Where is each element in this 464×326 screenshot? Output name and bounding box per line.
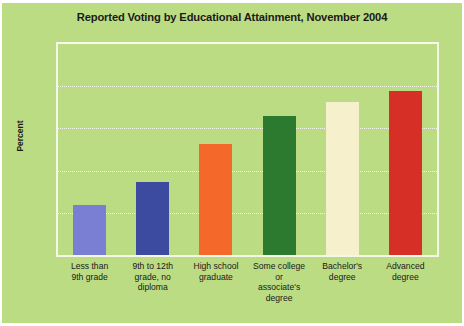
chart-figure: Reported Voting by Educational Attainmen… bbox=[2, 3, 462, 323]
x-tick-label-line: Advanced bbox=[360, 261, 450, 272]
x-tick-label-line: degree bbox=[234, 293, 324, 304]
gridline bbox=[58, 128, 437, 130]
y-axis-label: Percent bbox=[15, 106, 25, 166]
bar bbox=[389, 91, 422, 255]
x-tick-label-line: degree bbox=[360, 272, 450, 283]
gridline bbox=[58, 86, 437, 88]
bar bbox=[136, 182, 169, 255]
plot-area: 020406080100 bbox=[56, 42, 439, 257]
gridline bbox=[58, 171, 437, 173]
plot-inner: 020406080100 bbox=[58, 44, 437, 255]
gridline bbox=[58, 213, 437, 215]
x-tick-label-line: diploma bbox=[108, 282, 198, 293]
bar bbox=[199, 144, 232, 255]
bar bbox=[73, 205, 106, 255]
bar bbox=[263, 116, 296, 255]
bar bbox=[326, 102, 359, 255]
x-tick-label-line: associate's bbox=[234, 282, 324, 293]
x-tick-label: Advanceddegree bbox=[360, 261, 450, 282]
chart-title: Reported Voting by Educational Attainmen… bbox=[2, 11, 462, 24]
